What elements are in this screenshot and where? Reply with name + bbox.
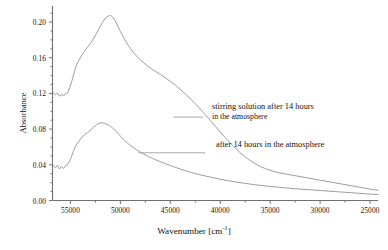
x-tick-label: 55000: [61, 206, 80, 215]
absorbance-spectrum-chart: 0.000.040.080.120.160.20 550005000045000…: [0, 0, 388, 250]
axis-ticks: [49, 13, 370, 204]
y-tick-label: 0.00: [8, 196, 46, 205]
series-0-noise-segment: [53, 89, 70, 97]
x-tick-label: 45000: [161, 206, 180, 215]
x-axis-title-main: Wavenumber [cm: [157, 226, 222, 236]
x-tick-label: 25000: [361, 206, 380, 215]
y-tick-label: 0.16: [8, 53, 46, 62]
x-axis-title-tail: ]: [228, 226, 231, 236]
series-1-noise-segment: [53, 161, 70, 169]
x-tick-label: 35000: [261, 206, 280, 215]
x-axis-title: Wavenumber [cm-1]: [0, 226, 388, 236]
annotation-upper-line1: stirring solution after 14 hours: [212, 102, 314, 111]
x-tick-label: 40000: [211, 206, 230, 215]
x-tick-label: 30000: [311, 206, 330, 215]
series-line-1: [69, 123, 378, 195]
y-tick-label: 0.04: [8, 160, 46, 169]
annotation-lower-line1: after 14 hours in the atmosphere: [216, 140, 324, 149]
annotation-upper-line2: in the atmosphere: [212, 112, 314, 122]
annotation-leader-lines: [138, 117, 205, 153]
y-axis-title: Absorbance: [18, 68, 28, 158]
annotation-after-14-hours: after 14 hours in the atmosphere: [216, 140, 324, 150]
x-tick-label: 50000: [111, 206, 130, 215]
plot-area: [0, 0, 388, 250]
annotation-stirring-solution: stirring solution after 14 hours in the …: [212, 102, 314, 123]
y-tick-label: 0.20: [8, 18, 46, 27]
